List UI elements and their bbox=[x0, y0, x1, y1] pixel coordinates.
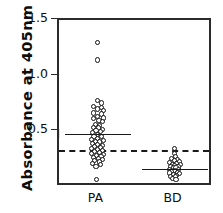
data-point bbox=[173, 177, 178, 182]
data-point bbox=[95, 57, 100, 62]
data-point bbox=[93, 164, 98, 169]
y-axis-title: Absorbance at 405nm bbox=[19, 11, 35, 191]
data-point bbox=[95, 40, 100, 45]
y-axis-tick-label: 1.0 bbox=[28, 66, 48, 81]
x-axis-tick-label-pa: PA bbox=[88, 190, 103, 205]
y-axis-tick-label: 0.5 bbox=[28, 121, 48, 136]
mean-label-pa: M bbox=[59, 127, 60, 141]
mean-line-bd bbox=[142, 169, 208, 170]
mean-line-pa bbox=[65, 134, 131, 135]
data-point bbox=[94, 177, 99, 182]
cutoff-dashed-line bbox=[59, 150, 209, 152]
plot-inner: MM bbox=[59, 20, 209, 183]
scatter-plot-figure: Absorbance at 405nm 0.51.01.5 MM PABD bbox=[0, 0, 223, 213]
x-axis-tick-label-bd: BD bbox=[163, 190, 181, 205]
data-point bbox=[91, 116, 96, 121]
y-axis-tick-label: 1.5 bbox=[28, 10, 48, 25]
plot-area: MM bbox=[57, 18, 211, 185]
